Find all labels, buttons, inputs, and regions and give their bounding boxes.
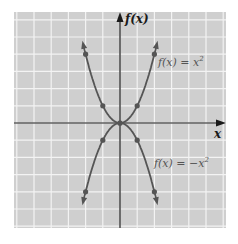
- x-axis-label: x: [213, 127, 222, 141]
- label-x-squared: f(x) = x2: [157, 55, 204, 69]
- label-neg-x-squared: f(x) = −x2: [153, 156, 210, 170]
- parabola-chart: x f(x) f(x) = x2 f(x) = −x2: [0, 0, 238, 244]
- y-axis-label: f(x): [124, 12, 149, 26]
